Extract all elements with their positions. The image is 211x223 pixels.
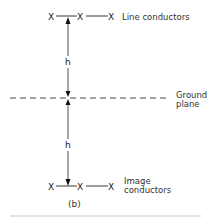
image-conductors-label-line2: conductors — [124, 185, 172, 195]
line-conductor-2: X — [77, 12, 83, 22]
figure-caption: (b) — [68, 199, 81, 209]
conductor-image-diagram: X X X Line conductors h Ground plane h X… — [0, 0, 211, 223]
arrow-up-icon — [66, 17, 71, 24]
arrow-down-icon — [66, 91, 71, 97]
lower-height-label: h — [65, 140, 71, 150]
lower-height-dimension: h — [65, 99, 71, 186]
image-conductors: X X X Image conductors — [48, 176, 172, 195]
upper-height-dimension: h — [65, 17, 71, 97]
line-conductors-label: Line conductors — [122, 12, 190, 22]
ground-plane-label-line2: plane — [176, 99, 200, 109]
arrow-down-icon — [66, 179, 71, 186]
image-conductor-3: X — [108, 182, 114, 192]
line-conductors: X X X Line conductors — [48, 12, 190, 22]
upper-height-label: h — [65, 57, 71, 67]
image-conductor-1: X — [48, 182, 54, 192]
line-conductor-1: X — [48, 12, 54, 22]
ground-plane: Ground plane — [10, 90, 207, 109]
image-conductor-2: X — [77, 182, 83, 192]
line-conductor-3: X — [108, 12, 114, 22]
